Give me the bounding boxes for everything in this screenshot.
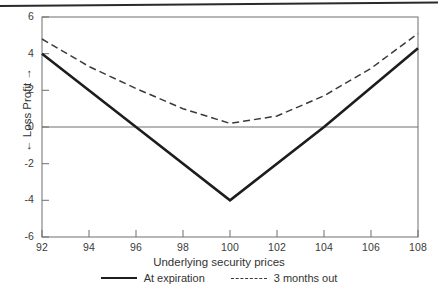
- series-3-months-out: [42, 34, 418, 124]
- legend-label-3-months-out: 3 months out: [274, 272, 338, 284]
- x-tick-label-98: 98: [169, 241, 197, 253]
- y-tick-label-neg4: -4: [8, 193, 34, 205]
- legend-swatch-dashed-icon: [231, 278, 267, 279]
- x-tick-label-94: 94: [75, 241, 103, 253]
- legend-swatch-solid-icon: [101, 277, 137, 279]
- x-tick-label-106: 106: [355, 241, 387, 253]
- figure-container: 6 4 2 0 -2 -4 -6 92 94 96 98 100 102 104…: [0, 0, 438, 288]
- x-tick-label-100: 100: [214, 241, 246, 253]
- x-axis-title: Underlying security prices: [0, 256, 438, 268]
- legend-item-3-months-out: 3 months out: [231, 272, 338, 284]
- x-tick-label-108: 108: [402, 241, 434, 253]
- y-axis-title: ← Loss Profit →: [21, 35, 33, 185]
- legend-item-at-expiration: At expiration: [101, 272, 205, 284]
- chart-legend: At expiration 3 months out: [0, 272, 438, 284]
- x-axis-ticks: [42, 230, 418, 237]
- x-tick-label-92: 92: [28, 241, 56, 253]
- x-tick-label-102: 102: [261, 241, 293, 253]
- y-tick-label-6: 6: [12, 10, 34, 22]
- x-tick-label-96: 96: [122, 241, 150, 253]
- series-at-expiration: [42, 48, 418, 200]
- x-tick-label-104: 104: [308, 241, 340, 253]
- y-axis-ticks: [42, 17, 49, 237]
- legend-label-at-expiration: At expiration: [144, 272, 205, 284]
